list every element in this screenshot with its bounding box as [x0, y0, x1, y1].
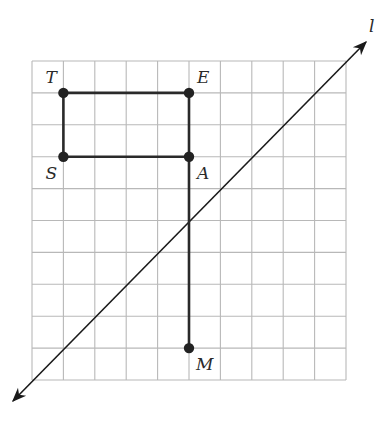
- point-label-s: S: [45, 165, 57, 182]
- point-label-m: M: [196, 356, 213, 373]
- point-s: [58, 152, 68, 162]
- line-label-l: l: [369, 18, 374, 35]
- coordinate-grid: [0, 0, 383, 432]
- point-label-a: A: [197, 165, 209, 182]
- point-m: [184, 343, 194, 353]
- point-label-e: E: [197, 69, 209, 86]
- point-e: [184, 88, 194, 98]
- point-t: [58, 88, 68, 98]
- point-a: [184, 152, 194, 162]
- point-label-t: T: [45, 69, 56, 86]
- geometry-figure: T E S A M l: [0, 0, 383, 432]
